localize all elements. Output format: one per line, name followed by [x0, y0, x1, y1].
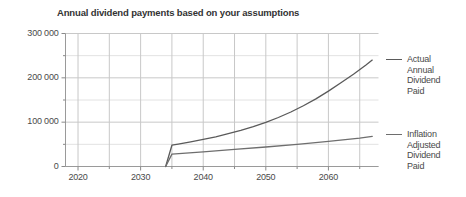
x-tick-label: 2030 [116, 172, 166, 182]
series-line-0 [166, 60, 373, 166]
y-tick-label: 0 [0, 161, 59, 171]
x-tick-label: 2050 [241, 172, 291, 182]
x-tick-label: 2060 [303, 172, 353, 182]
legend-line-icon [386, 55, 402, 64]
y-tick-label: 300 000 [0, 28, 59, 38]
legend-label: Actual Annual Dividend Paid [407, 54, 440, 96]
dividend-chart: Annual dividend payments based on your a… [0, 0, 466, 197]
y-tick-label: 200 000 [0, 72, 59, 82]
legend-item-0[interactable]: Actual Annual Dividend Paid [386, 54, 440, 96]
x-tick-label: 2020 [53, 172, 103, 182]
legend-item-1[interactable]: Inflation Adjusted Dividend Paid [386, 129, 440, 171]
legend-label: Inflation Adjusted Dividend Paid [407, 129, 440, 171]
legend-line-icon [386, 130, 402, 139]
y-tick-label: 100 000 [0, 116, 59, 126]
x-tick-label: 2040 [178, 172, 228, 182]
